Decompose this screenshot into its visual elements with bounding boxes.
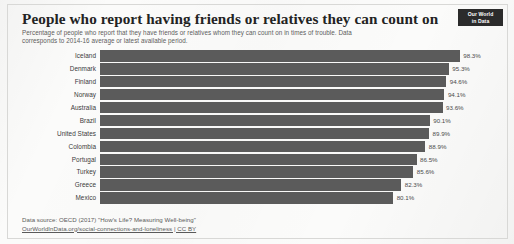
bar — [100, 128, 429, 140]
bar-value-label: 95.3% — [449, 63, 470, 75]
bar-category-label: Portugal — [22, 154, 96, 166]
data-source-text: Data source: OECD (2017) "How's Life? Me… — [22, 216, 196, 225]
bar-row: Turkey85.6% — [22, 166, 492, 178]
bar-category-label: Norway — [22, 89, 96, 101]
bar — [100, 141, 425, 153]
bar — [100, 166, 413, 178]
logo-line-2: in Data — [458, 18, 503, 25]
bar-category-label: Denmark — [22, 63, 96, 75]
chart-footer: Data source: OECD (2017) "How's Life? Me… — [22, 216, 196, 233]
bar-track: 86.5% — [100, 154, 492, 166]
bar — [100, 89, 444, 101]
bar-track: 90.1% — [100, 115, 492, 127]
bar-category-label: Iceland — [22, 50, 96, 62]
bar-value-label: 94.6% — [446, 76, 467, 88]
bar-track: 82.3% — [100, 179, 492, 191]
bar-row: Brazil90.1% — [22, 115, 492, 127]
bar-category-label: United States — [22, 128, 96, 140]
bar-category-label: Australia — [22, 102, 96, 114]
bar-row: Mexico80.1% — [22, 192, 492, 204]
bar-row: United States89.9% — [22, 128, 492, 140]
bar — [100, 63, 449, 75]
bar-category-label: Mexico — [22, 192, 96, 204]
bar-value-label: 89.9% — [429, 128, 450, 140]
bar-value-label: 86.5% — [417, 154, 438, 166]
bar-row: Colombia88.9% — [22, 141, 492, 153]
bar — [100, 179, 401, 191]
bar-row: Greece82.3% — [22, 179, 492, 191]
source-link[interactable]: OurWorldInData.org/social-connections-an… — [22, 225, 196, 234]
bar-track: 98.3% — [100, 50, 492, 62]
chart-title: People who report having friends or rela… — [22, 10, 438, 28]
bar-chart-plot-area: Iceland98.3%Denmark95.3%Finland94.6%Norw… — [22, 50, 492, 205]
bar — [100, 102, 443, 114]
chart-subtitle: Percentage of people who report that the… — [22, 29, 367, 46]
bar-value-label: 93.6% — [443, 102, 464, 114]
bar-track: 94.6% — [100, 76, 492, 88]
bar-value-label: 94.1% — [444, 89, 465, 101]
bar-category-label: Finland — [22, 76, 96, 88]
bar-value-label: 82.3% — [401, 179, 422, 191]
bar-category-label: Colombia — [22, 141, 96, 153]
bar-track: 93.6% — [100, 102, 492, 114]
bar-row: Portugal86.5% — [22, 154, 492, 166]
bar-track: 89.9% — [100, 128, 492, 140]
chart-container: People who report having friends or rela… — [0, 0, 514, 244]
bar-row: Iceland98.3% — [22, 50, 492, 62]
bar — [100, 192, 393, 204]
bar-value-label: 80.1% — [393, 192, 414, 204]
bar-track: 85.6% — [100, 166, 492, 178]
bar — [100, 76, 446, 88]
bar-value-label: 88.9% — [425, 141, 446, 153]
bar-row: Norway94.1% — [22, 89, 492, 101]
our-world-in-data-logo[interactable]: Our World in Data — [458, 9, 503, 26]
bar-row: Denmark95.3% — [22, 63, 492, 75]
bar-track: 94.1% — [100, 89, 492, 101]
bar-track: 88.9% — [100, 141, 492, 153]
bar-value-label: 85.6% — [413, 166, 434, 178]
bar-track: 95.3% — [100, 63, 492, 75]
bar-category-label: Greece — [22, 179, 96, 191]
bar — [100, 115, 430, 127]
bar-category-label: Brazil — [22, 115, 96, 127]
logo-line-1: Our World — [458, 11, 503, 18]
bar — [100, 50, 460, 62]
bar-value-label: 90.1% — [430, 115, 451, 127]
bar-row: Finland94.6% — [22, 76, 492, 88]
bar-track: 80.1% — [100, 192, 492, 204]
bar-row: Australia93.6% — [22, 102, 492, 114]
bar-category-label: Turkey — [22, 166, 96, 178]
bar-value-label: 98.3% — [460, 50, 481, 62]
bar — [100, 154, 417, 166]
